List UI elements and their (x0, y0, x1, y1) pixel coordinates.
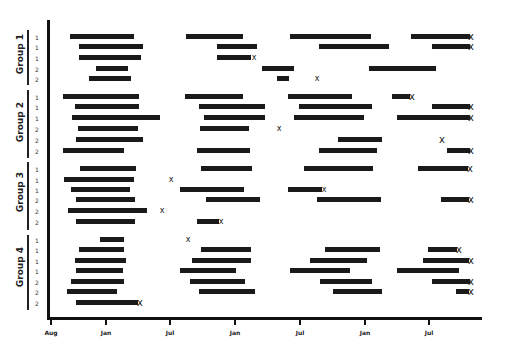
x-tick-label: Jul (296, 329, 305, 336)
x-tick-label: Jul (166, 329, 175, 336)
x-tick (50, 318, 52, 325)
timeline-bar (186, 34, 243, 39)
timeline-bar (75, 258, 126, 263)
timeline-bar (432, 104, 470, 109)
timeline-bar (392, 94, 410, 99)
timeline-bar (304, 166, 373, 171)
group-label: Group 2 (15, 97, 25, 147)
row-marker: 2 (35, 76, 39, 83)
timeline-bar (180, 268, 236, 273)
timeline-bar (100, 237, 124, 242)
x-tick (105, 318, 107, 325)
timeline-bar (192, 258, 251, 263)
timeline-bar (80, 166, 136, 171)
timeline-bar (185, 94, 243, 99)
y-axis (47, 20, 50, 320)
timeline-bar (325, 247, 380, 252)
group-bracket (27, 90, 29, 158)
timeline-bar (64, 177, 134, 182)
timeline-bar (333, 289, 382, 294)
row-marker: 2 (35, 148, 39, 155)
row-marker: 1 (35, 187, 39, 194)
event-mark-icon: x (137, 298, 143, 308)
x-tick (169, 318, 171, 325)
timeline-bar (71, 279, 124, 284)
row-marker: 2 (35, 300, 39, 307)
timeline-bar (369, 66, 436, 71)
event-mark-icon: x (169, 176, 174, 184)
x-tick-label: Jan (230, 329, 241, 336)
timeline-bar (201, 247, 251, 252)
timeline-chart: AugJanJulJanJulJanJul Group 11x1x1x22xGr… (0, 0, 506, 356)
row-marker: 1 (35, 268, 39, 275)
timeline-bar (397, 115, 470, 120)
group-label: Group 4 (15, 242, 25, 292)
event-mark-icon: x (409, 92, 415, 102)
timeline-bar (63, 148, 124, 153)
timeline-bar (197, 219, 219, 224)
row-marker: 2 (35, 219, 39, 226)
event-mark-icon: x (467, 164, 473, 174)
event-mark-icon: x (468, 102, 474, 112)
x-tick (299, 318, 301, 325)
event-mark-icon: x (186, 236, 191, 244)
timeline-bar (76, 137, 143, 142)
x-axis (47, 317, 482, 320)
event-mark-icon: x (252, 54, 257, 62)
timeline-bar (423, 258, 469, 263)
row-marker: 2 (35, 208, 39, 215)
event-mark-icon: x (219, 218, 224, 226)
timeline-bar (428, 247, 457, 252)
timeline-bar (277, 76, 289, 81)
event-mark-icon: x (456, 245, 462, 255)
group-bracket (27, 30, 29, 85)
timeline-bar (76, 268, 123, 273)
timeline-bar (68, 208, 147, 213)
timeline-bar (89, 76, 131, 81)
row-marker: 2 (35, 279, 39, 286)
row-marker: 1 (35, 258, 39, 265)
row-marker: 1 (35, 247, 39, 254)
x-tick-label: Jul (425, 329, 434, 336)
timeline-bar (319, 148, 377, 153)
timeline-bar (79, 247, 124, 252)
timeline-bar (76, 300, 138, 305)
timeline-bar (200, 126, 249, 131)
x-tick (428, 318, 430, 325)
timeline-bar (190, 279, 245, 284)
row-marker: 2 (35, 137, 39, 144)
row-marker: 2 (35, 66, 39, 73)
timeline-bar (310, 258, 367, 263)
group-label: Group 3 (15, 167, 25, 217)
timeline-bar (319, 44, 389, 49)
timeline-bar (79, 55, 141, 60)
x-tick-label: Aug (44, 329, 57, 336)
timeline-bar (411, 34, 470, 39)
timeline-bar (79, 44, 143, 49)
row-marker: 1 (35, 166, 39, 173)
row-marker: 1 (35, 115, 39, 122)
timeline-bar (294, 115, 364, 120)
timeline-bar (217, 55, 251, 60)
timeline-bar (288, 94, 352, 99)
timeline-bar (288, 187, 322, 192)
timeline-bar (63, 94, 139, 99)
timeline-bar (180, 187, 244, 192)
timeline-bar (75, 104, 139, 109)
row-marker: 2 (35, 126, 39, 133)
timeline-bar (67, 289, 117, 294)
row-marker: 1 (35, 177, 39, 184)
timeline-bar (199, 289, 255, 294)
timeline-bar (76, 219, 135, 224)
timeline-bar (447, 148, 470, 153)
timeline-bar (290, 34, 371, 39)
timeline-bar (204, 115, 265, 120)
row-marker: 1 (35, 237, 39, 244)
event-mark-icon: x (468, 287, 474, 297)
event-mark-icon: x (468, 256, 474, 266)
timeline-bar (299, 104, 372, 109)
row-marker: 1 (35, 104, 39, 111)
timeline-bar (217, 44, 257, 49)
timeline-bar (199, 104, 265, 109)
timeline-bar (290, 268, 350, 273)
